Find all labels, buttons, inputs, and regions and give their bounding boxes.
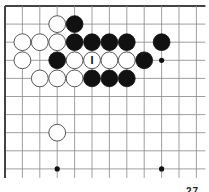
move-label: I xyxy=(90,54,93,66)
star-point xyxy=(159,58,164,63)
black-stone xyxy=(118,34,135,51)
white-stone xyxy=(101,52,118,69)
white-stone xyxy=(49,70,66,87)
white-stone xyxy=(118,52,135,69)
black-stone xyxy=(84,70,101,87)
white-stone xyxy=(66,70,83,87)
white-stone xyxy=(14,34,31,51)
white-stone xyxy=(66,52,83,69)
black-stone xyxy=(101,70,118,87)
black-stone xyxy=(153,34,170,51)
white-stone xyxy=(49,34,66,51)
white-stone xyxy=(31,34,48,51)
diagram-number: 27 xyxy=(186,186,199,192)
go-board: I xyxy=(0,0,209,192)
black-stone xyxy=(66,34,83,51)
black-stone xyxy=(118,70,135,87)
star-point xyxy=(55,166,60,171)
black-stone xyxy=(49,52,66,69)
star-point xyxy=(159,166,164,171)
black-stone xyxy=(136,52,153,69)
white-stone xyxy=(49,124,66,141)
black-stone xyxy=(66,16,83,33)
black-stone xyxy=(84,34,101,51)
white-stone xyxy=(14,52,31,69)
black-stone xyxy=(101,34,118,51)
white-stone xyxy=(31,70,48,87)
white-stone xyxy=(49,16,66,33)
